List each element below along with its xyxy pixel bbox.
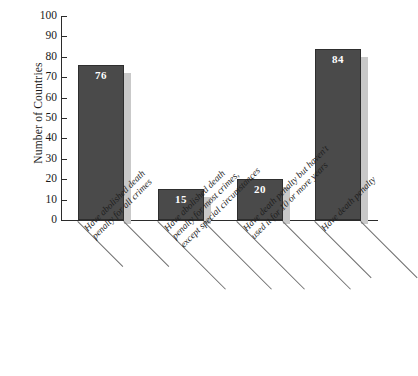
y-tick-label: 60 [46,91,58,104]
bar-value-label: 76 [78,69,124,81]
y-tick-label: 50 [46,111,58,124]
y-tick-label: 40 [46,131,58,144]
y-tick-label: 90 [46,29,58,42]
y-tick-label: 100 [40,9,57,22]
y-tick-label: 20 [46,172,58,185]
y-tick-label: 80 [46,50,58,63]
y-tick-label: 30 [46,152,58,165]
y-tick-label: 10 [46,193,58,206]
y-tick-label: 0 [51,213,57,226]
label-leader-line [360,221,417,278]
y-axis-title: Number of Countries [32,28,44,198]
label-leader-line [123,221,169,267]
bar-value-label: 84 [315,53,361,65]
label-leader-line [282,221,351,290]
y-tick-label: 70 [46,70,58,83]
